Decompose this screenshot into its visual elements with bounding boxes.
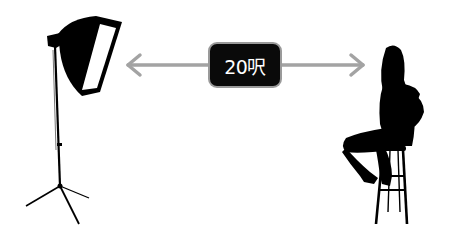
diagram-canvas: [0, 0, 449, 245]
softbox-light-icon: [26, 16, 122, 224]
distance-badge: 20呎: [210, 44, 280, 86]
distance-label: 20呎: [224, 52, 266, 79]
